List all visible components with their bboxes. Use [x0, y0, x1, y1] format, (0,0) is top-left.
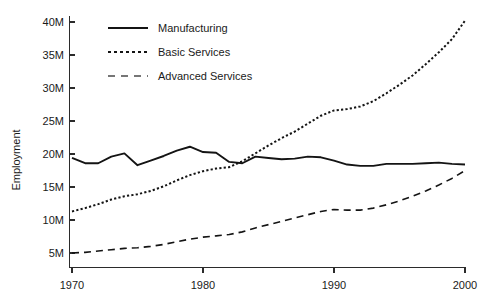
chart-background: [0, 0, 485, 306]
y-tick-label: 5M: [49, 247, 64, 259]
legend-label-manufacturing: Manufacturing: [158, 22, 228, 34]
y-axis-title: Employment: [10, 129, 22, 190]
y-tick-label: 25M: [43, 115, 64, 127]
y-tick-label: 30M: [43, 82, 64, 94]
chart-canvas: 5M10M15M20M25M30M35M40M 1970198019902000…: [0, 0, 485, 306]
y-tick-label: 35M: [43, 49, 64, 61]
y-tick-label: 20M: [43, 148, 64, 160]
x-tick-label: 1990: [322, 279, 346, 291]
employment-line-chart: 5M10M15M20M25M30M35M40M 1970198019902000…: [0, 0, 485, 306]
legend-label-advanced-services: Advanced Services: [158, 70, 253, 82]
x-tick-label: 1980: [191, 279, 215, 291]
y-tick-label: 15M: [43, 181, 64, 193]
x-tick-label: 2000: [453, 279, 477, 291]
y-tick-label: 40M: [43, 16, 64, 28]
y-tick-label: 10M: [43, 214, 64, 226]
x-tick-label: 1970: [60, 279, 84, 291]
legend-label-basic-services: Basic Services: [158, 46, 231, 58]
